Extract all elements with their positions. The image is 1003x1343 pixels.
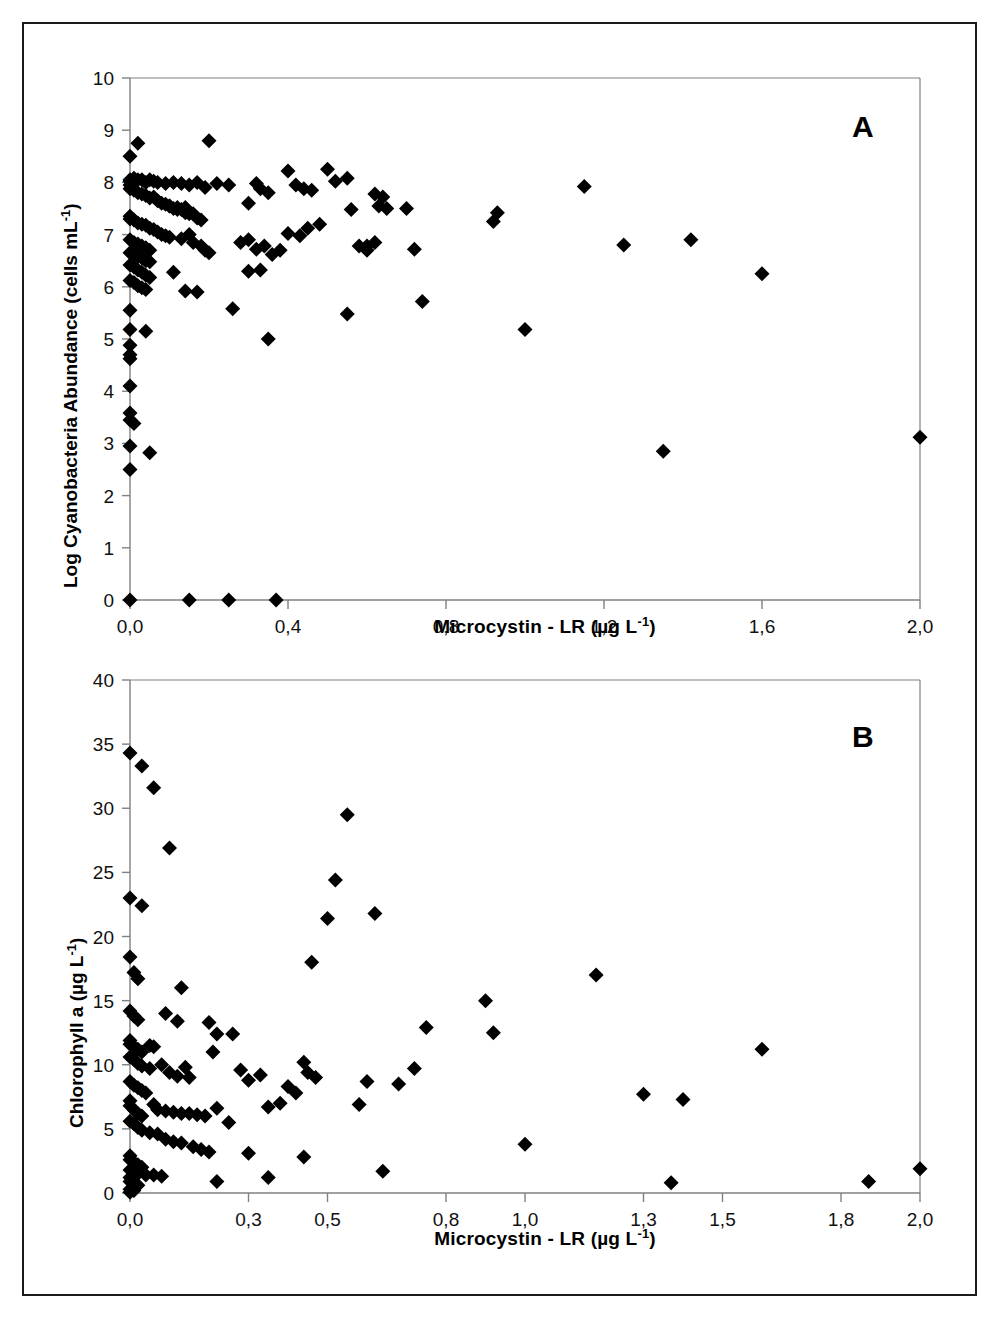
data-point-marker (158, 1006, 173, 1021)
y-tick-label: 20 (93, 927, 114, 948)
data-point-marker (123, 462, 138, 477)
data-point-marker (296, 1150, 311, 1165)
data-point-marker (134, 898, 149, 913)
data-point-marker (616, 238, 631, 253)
y-tick-label: 6 (103, 277, 114, 298)
data-point-marker (134, 758, 149, 773)
y-tick-label: 35 (93, 734, 114, 755)
y-tick-label: 7 (103, 225, 114, 246)
data-point-marker (419, 1020, 434, 1035)
data-point-marker (209, 1026, 224, 1041)
panel-a-letter: A (852, 110, 874, 144)
data-point-marker (123, 891, 138, 906)
data-point-marker (202, 133, 217, 148)
data-point-marker (589, 967, 604, 982)
x-tick-label: 2,0 (907, 1209, 933, 1230)
data-point-marker (320, 162, 335, 177)
data-point-marker (190, 285, 205, 300)
data-point-marker (676, 1092, 691, 1107)
x-tick-label: 0,8 (433, 1209, 459, 1230)
data-points (123, 746, 928, 1200)
data-point-marker (233, 1062, 248, 1077)
data-point-marker (170, 1014, 185, 1029)
data-point-marker (861, 1174, 876, 1189)
y-tick-label: 0 (103, 590, 114, 611)
figure-root: 0123456789100,00,40,81,21,62,0 A Microcy… (0, 0, 1003, 1343)
x-tick-label: 0,0 (117, 616, 143, 637)
data-point-marker (205, 1044, 220, 1059)
data-points (123, 133, 928, 607)
data-point-marker (146, 780, 161, 795)
data-point-marker (202, 1015, 217, 1030)
y-tick-label: 15 (93, 991, 114, 1012)
data-point-marker (225, 301, 240, 316)
x-tick-label: 1,5 (709, 1209, 735, 1230)
data-point-marker (577, 179, 592, 194)
y-tick-label: 40 (93, 670, 114, 691)
data-point-marker (913, 1161, 928, 1176)
data-point-marker (162, 841, 177, 856)
data-point-marker (221, 178, 236, 193)
y-tick-label: 5 (103, 1119, 114, 1140)
data-point-marker (344, 202, 359, 217)
data-point-marker (281, 163, 296, 178)
data-point-marker (518, 1137, 533, 1152)
data-point-marker (209, 1174, 224, 1189)
data-point-marker (415, 294, 430, 309)
data-point-marker (636, 1087, 651, 1102)
data-point-marker (142, 445, 157, 460)
y-tick-label: 2 (103, 486, 114, 507)
y-tick-label: 4 (103, 381, 114, 402)
panel-b-plot: 05101520253035400,00,30,50,81,01,31,51,8… (22, 648, 977, 1288)
data-point-marker (241, 264, 256, 279)
data-point-marker (123, 950, 138, 965)
panel-a-plot: 0123456789100,00,40,81,21,62,0 (22, 28, 977, 668)
x-tick-label: 0,5 (314, 1209, 340, 1230)
data-point-marker (123, 322, 138, 337)
data-point-marker (328, 873, 343, 888)
data-point-marker (913, 430, 928, 445)
y-tick-label: 5 (103, 329, 114, 350)
data-point-marker (123, 149, 138, 164)
data-point-marker (320, 911, 335, 926)
data-point-marker (241, 196, 256, 211)
x-tick-label: 1,8 (828, 1209, 854, 1230)
x-tick-label: 1,0 (512, 1209, 538, 1230)
data-point-marker (253, 263, 268, 278)
data-point-marker (130, 136, 145, 151)
y-tick-label: 8 (103, 172, 114, 193)
data-point-marker (123, 746, 138, 761)
panel-b: 05101520253035400,00,30,50,81,01,31,51,8… (22, 648, 977, 1288)
y-tick-label: 0 (103, 1183, 114, 1204)
data-point-marker (123, 439, 138, 454)
data-point-marker (178, 283, 193, 298)
data-point-marker (399, 201, 414, 216)
data-point-marker (209, 1101, 224, 1116)
data-point-marker (261, 1170, 276, 1185)
data-point-marker (360, 1074, 375, 1089)
data-point-marker (166, 265, 181, 280)
data-point-marker (367, 906, 382, 921)
data-point-marker (518, 322, 533, 337)
y-tick-label: 30 (93, 798, 114, 819)
panel-b-letter: B (852, 720, 874, 754)
data-point-marker (273, 1096, 288, 1111)
data-point-marker (407, 1061, 422, 1076)
data-point-marker (328, 174, 343, 189)
data-point-marker (391, 1076, 406, 1091)
data-point-marker (407, 242, 422, 257)
data-point-marker (269, 593, 284, 608)
data-point-marker (261, 1100, 276, 1115)
data-point-marker (174, 980, 189, 995)
panel-a-y-axis-title: Log Cyanobacteria Abundance (cells mL-1) (60, 203, 82, 588)
data-point-marker (281, 226, 296, 241)
data-point-marker (138, 324, 153, 339)
data-point-marker (304, 955, 319, 970)
data-point-marker (340, 807, 355, 822)
panel-a: 0123456789100,00,40,81,21,62,0 A Microcy… (22, 28, 977, 668)
data-point-marker (221, 1115, 236, 1130)
data-point-marker (225, 1026, 240, 1041)
panel-a-x-axis-title: Microcystin - LR (µg L-1) (150, 616, 940, 638)
data-point-marker (478, 993, 493, 1008)
x-tick-label: 0,3 (235, 1209, 261, 1230)
